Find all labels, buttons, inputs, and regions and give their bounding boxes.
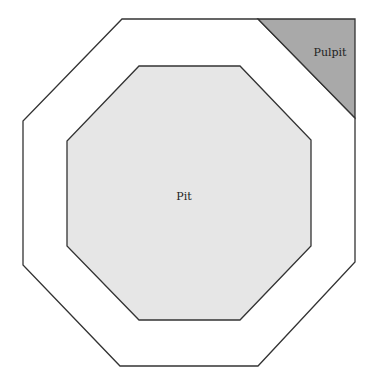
- pit-label: Pit: [176, 190, 192, 203]
- floor-plan-diagram: Pit Pulpit: [0, 0, 377, 386]
- pulpit-label: Pulpit: [314, 46, 348, 59]
